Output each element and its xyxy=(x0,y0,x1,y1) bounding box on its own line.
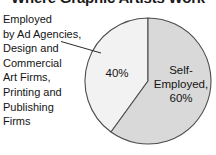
slice-label-60-line3: 60% xyxy=(169,92,192,104)
slice-label-40: 40% xyxy=(105,67,128,79)
slice-label-60-line2: Employed, xyxy=(154,78,208,90)
slice-label-60-line1: Self- xyxy=(169,64,193,76)
chart-screenshot: Where Graphic Artists Work Employed by A… xyxy=(0,0,216,155)
pie-chart: 40% Self- Employed, 60% xyxy=(0,0,216,155)
